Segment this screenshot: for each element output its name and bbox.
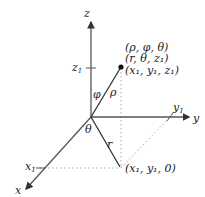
y1-label: y1 bbox=[172, 101, 184, 115]
cartesian-coordinates-label: (x₁, y₁, z₁) bbox=[125, 64, 179, 77]
x-axis-label: x bbox=[15, 184, 22, 197]
ticks bbox=[36, 68, 173, 168]
dotted-guides bbox=[40, 68, 170, 168]
z-axis-label: z bbox=[83, 7, 90, 20]
projection-point-label: (x₁, y₁, 0) bbox=[125, 162, 176, 175]
r-segment bbox=[91, 117, 120, 167]
x-axis bbox=[26, 117, 91, 189]
r-label: r bbox=[107, 138, 113, 151]
point-marker bbox=[118, 64, 123, 69]
rho-label: ρ bbox=[109, 86, 117, 99]
theta-label: θ bbox=[85, 123, 92, 136]
x1-label: x1 bbox=[25, 160, 36, 174]
phi-label: φ bbox=[93, 88, 101, 101]
z1-label: z1 bbox=[71, 61, 82, 75]
diagram-canvas: z y x z1 y1 x1 φ ρ θ r (ρ, φ, θ) (r, θ, … bbox=[0, 0, 205, 197]
coordinate-diagram: z y x z1 y1 x1 φ ρ θ r (ρ, φ, θ) (r, θ, … bbox=[0, 0, 205, 197]
y1-guide-line bbox=[121, 117, 170, 168]
y-axis-label: y bbox=[192, 112, 200, 125]
